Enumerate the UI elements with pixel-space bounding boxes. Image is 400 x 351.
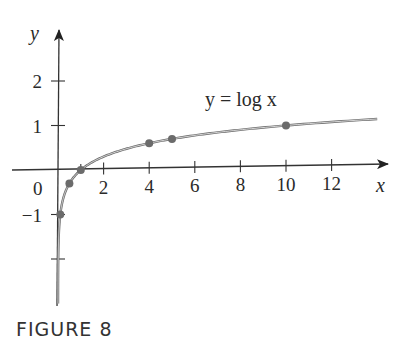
data-point	[145, 139, 153, 147]
data-point	[168, 135, 176, 143]
y-tick-label: 1	[33, 116, 43, 137]
x-tick-label: 4	[144, 176, 154, 197]
x-tick-label: 10	[277, 174, 296, 195]
y-axis-label: y	[28, 22, 39, 45]
data-point	[282, 122, 290, 130]
labels: 24681012−1120xyy = log x	[22, 22, 385, 226]
curve-inner	[58, 119, 377, 304]
curve-line	[58, 119, 377, 304]
equation-label: y = log x	[205, 88, 277, 111]
x-axis-label: x	[375, 174, 385, 196]
x-tick-label: 12	[322, 173, 341, 194]
data-point	[65, 179, 73, 187]
x-tick-label: 6	[190, 175, 200, 196]
y-tick-label: −1	[22, 205, 42, 226]
log-chart: 24681012−1120xyy = log x	[0, 0, 400, 351]
data-points	[56, 122, 290, 219]
data-point	[56, 211, 64, 219]
ticks	[51, 81, 332, 259]
x-tick-label: 2	[99, 177, 109, 198]
x-tick-label: 8	[236, 174, 246, 195]
y-tick-label: 2	[33, 71, 43, 92]
origin-label: 0	[33, 178, 43, 199]
log-curve	[58, 119, 377, 304]
data-point	[77, 166, 85, 174]
figure-caption: FIGURE 8	[16, 318, 113, 340]
